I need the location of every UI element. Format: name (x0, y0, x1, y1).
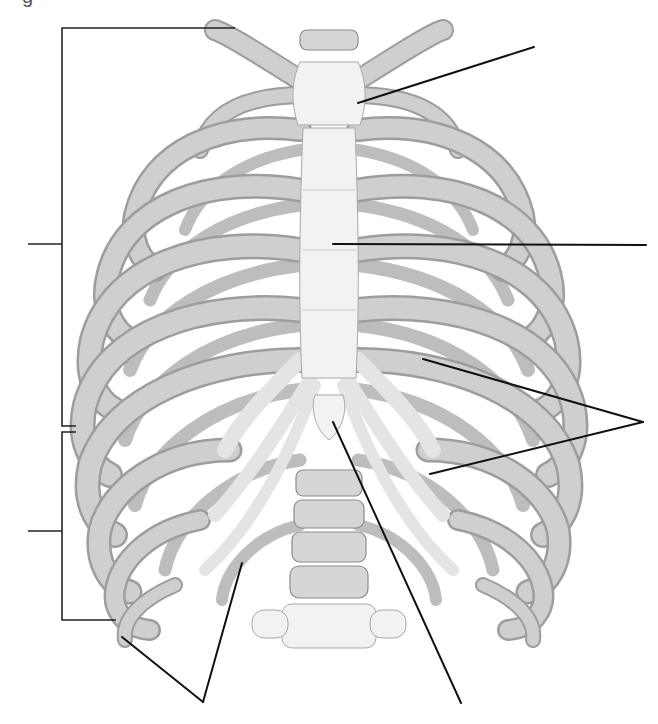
sternum-body (300, 128, 358, 378)
lumbar-vertebra (282, 604, 376, 648)
transverse-process-right (370, 610, 406, 638)
sternum-body-leader (333, 244, 646, 245)
thoracic-cage-diagram (0, 0, 658, 724)
floating-rib-leader-1 (122, 637, 203, 702)
manubrium (293, 62, 365, 125)
xiphoid-process (313, 395, 345, 440)
transverse-process-left (252, 610, 288, 638)
